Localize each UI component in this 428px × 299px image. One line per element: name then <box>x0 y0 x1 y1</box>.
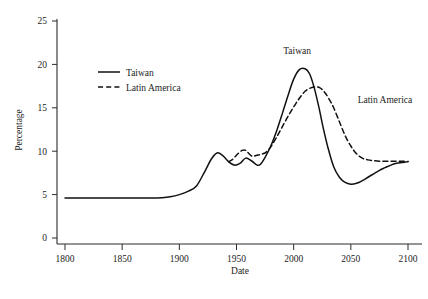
y-axis: 0510152025 Percentage <box>14 16 57 244</box>
chart-figure: 0510152025 Percentage 180018501900195020… <box>0 0 428 299</box>
y-axis-ticks <box>52 21 57 238</box>
x-axis-ticks <box>65 244 408 250</box>
annotation-taiwan: Taiwan <box>283 46 311 56</box>
x-tick-label-1950: 1950 <box>227 254 246 264</box>
annotation-latin-america: Latin America <box>358 95 413 105</box>
x-tick-label-2000: 2000 <box>284 254 303 264</box>
y-tick-label-10: 10 <box>38 147 48 157</box>
x-tick-label-1800: 1800 <box>56 254 75 264</box>
x-tick-label-1850: 1850 <box>113 254 132 264</box>
y-axis-title: Percentage <box>14 109 24 151</box>
x-axis-tick-labels: 1800185019001950200020502100 <box>56 254 418 264</box>
series-annotations: Taiwan Latin America <box>283 46 413 105</box>
x-tick-label-2050: 2050 <box>341 254 360 264</box>
y-tick-label-0: 0 <box>42 233 47 243</box>
legend-label-latin-america: Latin America <box>126 83 181 93</box>
y-tick-label-20: 20 <box>38 60 48 70</box>
y-tick-label-25: 25 <box>38 16 48 26</box>
x-axis-title: Date <box>231 266 249 276</box>
y-tick-label-5: 5 <box>42 190 47 200</box>
y-axis-tick-labels: 0510152025 <box>38 16 48 243</box>
line-chart: 0510152025 Percentage 180018501900195020… <box>0 0 428 299</box>
x-axis: 1800185019001950200020502100 Date <box>56 244 423 276</box>
x-tick-label-2100: 2100 <box>399 254 418 264</box>
legend: Taiwan Latin America <box>98 68 181 93</box>
legend-label-taiwan: Taiwan <box>126 68 154 78</box>
x-tick-label-1900: 1900 <box>170 254 189 264</box>
y-tick-label-15: 15 <box>38 103 48 113</box>
